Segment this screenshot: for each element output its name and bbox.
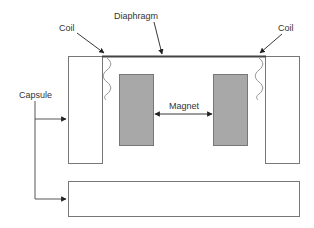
coil-left-label: Coil — [59, 23, 75, 33]
diaphragm-label: Diaphragm — [114, 11, 158, 21]
magnet-right — [214, 75, 248, 146]
coil-left-arrow — [77, 33, 104, 53]
capsule-right-wall — [266, 57, 300, 164]
coil-right-label: Coil — [278, 23, 294, 33]
capsule-base — [69, 182, 300, 217]
capsule-left-wall — [69, 57, 103, 164]
diaphragm-arrow — [154, 22, 162, 54]
capsule-diagram — [0, 0, 314, 228]
capsule-label: Capsule — [19, 90, 52, 100]
magnet-label: Magnet — [169, 101, 199, 111]
coil-right-arrow — [260, 34, 282, 53]
coil-right-wire — [255, 58, 263, 100]
magnet-left — [120, 75, 154, 146]
coil-left-wire — [103, 58, 111, 100]
